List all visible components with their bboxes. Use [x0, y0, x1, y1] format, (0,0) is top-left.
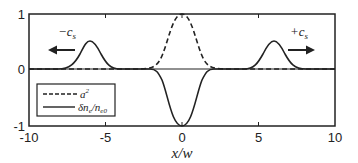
x-tick-label: 0 [178, 130, 185, 145]
x-ticks [106, 14, 259, 126]
x-tick-label: -5 [100, 130, 112, 145]
x-tick-label: 10 [328, 130, 342, 145]
annotation-plus-cs: +cs [288, 24, 315, 55]
svg-text:+cs: +cs [290, 24, 309, 41]
arrowhead-right-icon [306, 46, 315, 55]
x-axis-label: x/w [171, 145, 193, 161]
svg-text:−cs: −cs [58, 24, 77, 41]
y-tick-label: 1 [18, 7, 25, 22]
y-tick-label: 0 [18, 62, 25, 77]
x-tick-label: 5 [255, 130, 262, 145]
annotation-minus-cs: −cs [48, 24, 77, 55]
x-tick-label: -10 [20, 130, 39, 145]
arrowhead-left-icon [48, 46, 57, 55]
line-chart: 1 0 -1 -10 -5 0 5 10 x/w −cs +cs a2 δne/… [0, 0, 358, 163]
legend: a2 δne/ne0 [37, 84, 115, 116]
